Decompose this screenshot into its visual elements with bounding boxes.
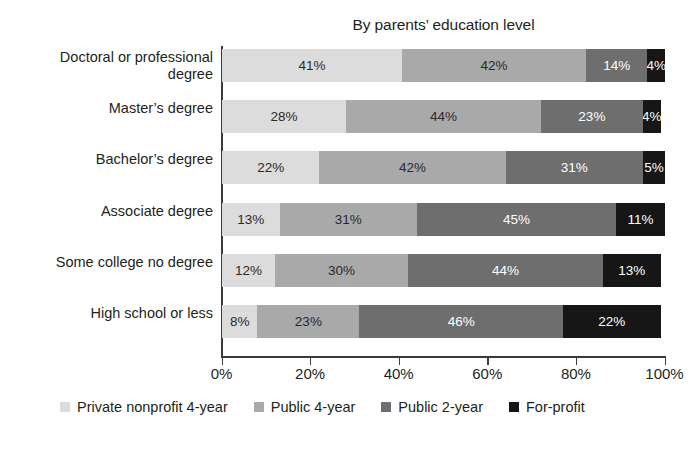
x-axis-tick — [310, 357, 311, 365]
legend-item[interactable]: Public 4-year — [254, 399, 356, 415]
bar-segment: 41% — [222, 49, 402, 82]
bar-value-label: 31% — [335, 212, 362, 227]
bar-value-label: 5% — [644, 160, 664, 175]
legend-label: Private nonprofit 4-year — [77, 399, 228, 415]
bar-segment: 44% — [408, 254, 603, 287]
bar-value-label: 45% — [503, 212, 530, 227]
bar-value-label: 28% — [271, 109, 298, 124]
bar-value-label: 23% — [295, 314, 322, 329]
bar-value-label: 14% — [603, 58, 630, 73]
category-label: High school or less — [0, 305, 213, 322]
category-label: Bachelor’s degree — [0, 151, 213, 168]
stacked-bar: 22%42%31%5% — [222, 151, 665, 184]
bar-segment: 42% — [319, 151, 505, 184]
stacked-bar: 8%23%46%22% — [222, 305, 665, 338]
legend-label: Public 4-year — [271, 399, 356, 415]
bar-segment: 8% — [222, 305, 257, 338]
bar-segment: 23% — [257, 305, 359, 338]
legend-label: Public 2-year — [398, 399, 483, 415]
chart-row: Some college no degree12%30%44%13% — [222, 254, 665, 287]
x-axis-tick — [576, 357, 577, 365]
bar-value-label: 12% — [235, 263, 262, 278]
chart-title: By parents’ education level — [222, 16, 665, 34]
legend-item[interactable]: Public 2-year — [381, 399, 483, 415]
bar-segment: 45% — [417, 203, 616, 236]
category-label: Doctoral or professional degree — [0, 49, 213, 83]
chart-row: Associate degree13%31%45%11% — [222, 203, 665, 236]
bar-segment: 44% — [346, 100, 541, 133]
chart-row: Doctoral or professional degree41%42%14%… — [222, 49, 665, 82]
x-axis-tick-label: 40% — [384, 365, 414, 382]
bar-segment: 30% — [275, 254, 408, 287]
category-label: Associate degree — [0, 203, 213, 220]
chart-legend: Private nonprofit 4-yearPublic 4-yearPub… — [60, 396, 660, 418]
bar-value-label: 22% — [598, 314, 625, 329]
bar-value-label: 42% — [480, 58, 507, 73]
bar-value-label: 41% — [298, 58, 325, 73]
bar-segment: 22% — [222, 151, 319, 184]
x-axis-tick-label: 80% — [561, 365, 591, 382]
bar-value-label: 8% — [230, 314, 250, 329]
stacked-bar: 13%31%45%11% — [222, 203, 665, 236]
category-label: Master’s degree — [0, 100, 213, 117]
bar-segment: 31% — [280, 203, 417, 236]
x-axis-tick — [222, 357, 223, 365]
legend-swatch-icon — [381, 402, 391, 412]
bar-segment: 13% — [222, 203, 280, 236]
bar-segment: 5% — [643, 151, 665, 184]
plot-area: Doctoral or professional degree41%42%14%… — [222, 48, 665, 355]
bar-segment: 46% — [359, 305, 563, 338]
bar-segment: 4% — [647, 49, 665, 82]
bar-segment: 23% — [541, 100, 643, 133]
x-axis-tick-label: 20% — [295, 365, 325, 382]
legend-item[interactable]: For-profit — [509, 399, 585, 415]
stacked-bar: 41%42%14%4% — [222, 49, 665, 82]
legend-swatch-icon — [254, 402, 264, 412]
bar-value-label: 30% — [328, 263, 355, 278]
stacked-bar: 28%44%23%4% — [222, 100, 665, 133]
bar-segment: 13% — [603, 254, 661, 287]
legend-label: For-profit — [526, 399, 585, 415]
chart-row: Master’s degree28%44%23%4% — [222, 100, 665, 133]
bar-segment: 22% — [563, 305, 660, 338]
bar-value-label: 23% — [578, 109, 605, 124]
bar-segment: 4% — [643, 100, 661, 133]
legend-item[interactable]: Private nonprofit 4-year — [60, 399, 228, 415]
bar-value-label: 11% — [628, 212, 654, 227]
x-axis-tick — [399, 357, 400, 365]
x-axis-line — [221, 356, 666, 358]
x-axis-tick-label: 100% — [645, 365, 683, 382]
bar-segment: 42% — [402, 49, 586, 82]
x-axis-tick-label: 0% — [211, 365, 233, 382]
x-axis-tick — [665, 357, 666, 365]
bar-segment: 11% — [616, 203, 665, 236]
bar-value-label: 22% — [257, 160, 284, 175]
category-label: Some college no degree — [0, 254, 213, 271]
bar-value-label: 44% — [430, 109, 457, 124]
bar-value-label: 4% — [643, 109, 661, 124]
bar-value-label: 13% — [618, 263, 645, 278]
legend-swatch-icon — [60, 402, 70, 412]
chart-row: High school or less8%23%46%22% — [222, 305, 665, 338]
bar-value-label: 31% — [561, 160, 588, 175]
x-axis-tick-label: 60% — [472, 365, 502, 382]
stacked-bar: 12%30%44%13% — [222, 254, 665, 287]
bar-segment: 28% — [222, 100, 346, 133]
bar-value-label: 46% — [448, 314, 475, 329]
bar-value-label: 42% — [399, 160, 426, 175]
bar-segment: 14% — [586, 49, 647, 82]
legend-swatch-icon — [509, 402, 519, 412]
bar-value-label: 13% — [237, 212, 264, 227]
bar-value-label: 4% — [647, 58, 665, 73]
bar-segment: 12% — [222, 254, 275, 287]
chart-container: By parents’ education level Doctoral or … — [0, 0, 693, 453]
bar-value-label: 44% — [492, 263, 519, 278]
bar-segment: 31% — [506, 151, 643, 184]
chart-row: Bachelor’s degree22%42%31%5% — [222, 151, 665, 184]
x-axis-tick — [487, 357, 488, 365]
